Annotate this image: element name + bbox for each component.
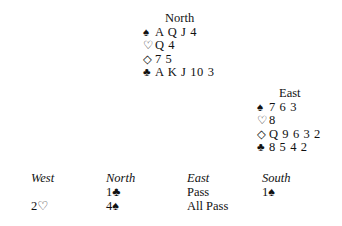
diamond-icon: ◇ [143,53,155,67]
east-clubs: ♣8 5 4 2 [257,141,321,155]
north-hand: North ♠A Q J 4 ♡Q 4 ◇7 5 ♣A K J 10 3 [143,12,214,80]
bid-east: Pass [187,185,209,199]
north-diamond-cards: 7 5 [155,52,172,66]
north-club-cards: A K J 10 3 [155,65,214,79]
north-spades: ♠A Q J 4 [143,26,214,40]
east-heart-cards: 8 [269,113,276,127]
bid-west: 2♡ [31,199,48,213]
club-icon: ♣ [257,141,269,155]
diamond-icon: ◇ [257,128,269,142]
north-spade-cards: A Q J 4 [155,25,197,39]
header-west: West [31,171,54,185]
spade-icon: ♠ [143,26,155,40]
heart-icon: ♡ [257,114,269,128]
east-title: East [257,87,321,101]
east-hand: East ♠7 6 3 ♡8 ◇Q 9 6 3 2 ♣8 5 4 2 [257,87,321,155]
heart-icon: ♡ [143,39,155,53]
north-diamonds: ◇7 5 [143,53,214,67]
header-south: South [262,171,290,185]
header-north: North [106,171,135,185]
bid-south: 1♠ [262,185,275,199]
north-heart-cards: Q 4 [155,38,175,52]
east-spades: ♠7 6 3 [257,101,321,115]
east-hearts: ♡8 [257,114,321,128]
east-diamonds: ◇Q 9 6 3 2 [257,128,321,142]
north-clubs: ♣A K J 10 3 [143,66,214,80]
bid-north: 1♣ [106,185,120,199]
spade-icon: ♠ [257,101,269,115]
north-title: North [143,12,214,26]
bid-east: All Pass [187,199,228,213]
header-east: East [187,171,209,185]
east-spade-cards: 7 6 3 [269,100,297,114]
north-hearts: ♡Q 4 [143,39,214,53]
bid-north: 4♠ [106,199,119,213]
east-club-cards: 8 5 4 2 [269,140,308,154]
club-icon: ♣ [143,66,155,80]
east-diamond-cards: Q 9 6 3 2 [269,127,321,141]
